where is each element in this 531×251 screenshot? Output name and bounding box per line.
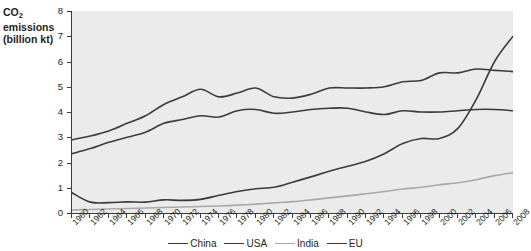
legend-swatch-china [168, 243, 188, 244]
y-axis-tick-label: 2 [45, 157, 63, 168]
y-axis-tick-label: 1 [45, 182, 63, 193]
legend-item-china: China [168, 238, 216, 249]
legend-label-china: China [190, 238, 216, 249]
y-axis-tick-mark [67, 62, 71, 63]
y-axis-tick-mark [67, 11, 71, 12]
y-axis-tick-label: 6 [45, 56, 63, 67]
legend-swatch-eu [327, 243, 347, 244]
y-axis-tick-mark [67, 36, 71, 37]
chart-legend: ChinaUSAIndiaEU [0, 236, 531, 250]
y-axis-tick-label: 8 [45, 5, 63, 16]
y-axis-tick-mark [67, 163, 71, 164]
legend-label-eu: EU [349, 238, 363, 249]
legend-item-eu: EU [327, 238, 363, 249]
series-line-usa [72, 69, 513, 140]
y-axis-tick-label: 0 [45, 207, 63, 218]
legend-swatch-india [275, 243, 295, 244]
y-axis-tick-label: 5 [45, 81, 63, 92]
y-axis-tick-mark [67, 87, 71, 88]
y-axis-title-subscript: 2 [19, 11, 23, 20]
legend-label-india: India [297, 238, 319, 249]
y-axis-tick-label: 3 [45, 131, 63, 142]
co2-emissions-line-chart: CO2 emissions (billion kt) 012345678 196… [0, 0, 531, 251]
y-axis-tick-label: 7 [45, 30, 63, 41]
series-line-eu [72, 108, 513, 154]
plot-lines [72, 11, 513, 213]
legend-label-usa: USA [246, 238, 267, 249]
x-axis-tick-label: 2008 [511, 206, 531, 227]
y-axis-tick-mark [67, 112, 71, 113]
y-axis-tick-mark [67, 137, 71, 138]
y-axis-tick-mark [67, 188, 71, 189]
legend-item-india: India [275, 238, 319, 249]
series-line-india [72, 173, 513, 210]
y-axis-tick-label: 4 [45, 106, 63, 117]
legend-item-usa: USA [224, 238, 267, 249]
legend-swatch-usa [224, 243, 244, 244]
plot-area [71, 11, 513, 214]
